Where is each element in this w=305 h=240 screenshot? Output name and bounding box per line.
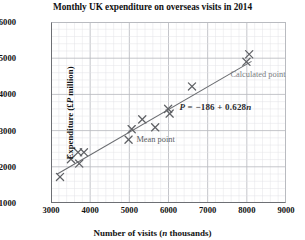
y-tick-label-5: 6000	[0, 17, 16, 27]
data-point-marker	[67, 156, 74, 163]
y-tick-label-1: 2000	[0, 162, 16, 172]
x-axis-title: Number of visits (n thousands)	[0, 228, 305, 238]
mean-point-annotation: Mean point	[136, 135, 174, 144]
y-tick-label-3: 4000	[0, 89, 16, 99]
data-point-marker	[56, 173, 63, 180]
plot-area: P = −186 + 0.628n Mean point Calculated …	[51, 22, 286, 203]
y-tick-label-2: 3000	[0, 126, 16, 136]
data-point-marker	[152, 124, 159, 131]
x-axis-title-tail: thousands)	[167, 228, 211, 238]
data-point-marker	[125, 136, 132, 143]
x-tick-label-6: 9000	[256, 205, 305, 215]
chart-title: Monthly UK expenditure on overseas visit…	[0, 2, 305, 12]
chart-root: Monthly UK expenditure on overseas visit…	[0, 0, 305, 240]
y-tick-label-4: 5000	[0, 53, 16, 63]
data-layer	[51, 22, 286, 203]
data-point-marker	[188, 83, 195, 90]
equation-rhs: = −186 + 0.628	[185, 102, 246, 112]
calculated-point-annotation: Calculated point	[230, 70, 285, 79]
equation-variable: n	[246, 102, 251, 112]
data-point-marker	[246, 51, 253, 58]
y-tick-label-0: 1000	[0, 198, 16, 208]
data-point-marker	[139, 116, 146, 123]
x-axis-title-plain: Number of visits (	[94, 228, 163, 238]
regression-equation-annotation: P = −186 + 0.628n	[179, 102, 251, 112]
data-point-marker	[80, 149, 87, 156]
